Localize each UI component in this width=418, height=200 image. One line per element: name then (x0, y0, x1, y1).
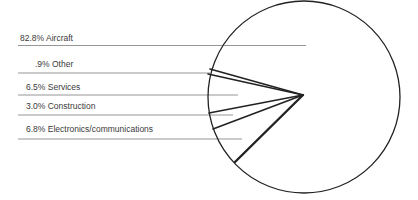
slice-label: 6.5% Services (26, 82, 80, 92)
slice-label: .9% Other (35, 59, 73, 69)
slice-label: 82.8% Aircraft (20, 33, 74, 43)
slice-divider (208, 74, 303, 95)
slice-label: 3.0% Construction (26, 101, 96, 111)
legend-labels: 82.8% Aircraft.9% Other6.5% Services3.0%… (20, 33, 153, 134)
slice-divider (235, 95, 303, 162)
pie-chart: 82.8% Aircraft.9% Other6.5% Services3.0%… (0, 0, 418, 200)
pie-outline (208, 1, 400, 193)
slice-divider (213, 95, 303, 129)
slice-label: 6.8% Electronics/communications (26, 124, 153, 134)
